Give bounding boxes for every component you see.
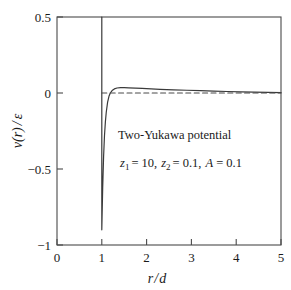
x-tick-label-0: 0	[54, 250, 61, 265]
y-tick-label-3: −1	[37, 238, 51, 253]
y-tick-label-1: 0	[45, 86, 52, 101]
x-axis-title-r: r	[148, 271, 154, 286]
annot-z1-subscript: 1	[125, 162, 130, 172]
plot-canvas: 0.5 0 −0.5 −1 0 1 2 3 4 5 r/d v(r)/ε Two…	[0, 0, 291, 290]
annot-A-value: = 0.1	[216, 156, 242, 170]
annotation-parameters: z1= 10,z2= 0.1,A= 0.1	[119, 156, 242, 172]
svg-text:z1= 10,z2= 0.1,A= 0.1: z1= 10,z2= 0.1,A= 0.1	[119, 156, 242, 172]
svg-text:r/d: r/d	[148, 271, 167, 286]
y-tick-label-2: −0.5	[27, 162, 51, 177]
annot-A-symbol: A	[205, 156, 214, 170]
x-tick-label-4: 4	[233, 250, 240, 265]
y-axis-title-eps: ε	[10, 113, 25, 119]
x-tick-label-5: 5	[278, 250, 285, 265]
chart-figure: 0.5 0 −0.5 −1 0 1 2 3 4 5 r/d v(r)/ε Two…	[0, 0, 291, 290]
x-tick-label-1: 1	[99, 250, 106, 265]
annotation-title: Two-Yukawa potential	[118, 128, 232, 142]
annot-z2-value: = 0.1,	[173, 156, 202, 170]
x-tick-label-2: 2	[143, 250, 150, 265]
annot-z1-value: = 10,	[131, 156, 157, 170]
y-axis-title: v(r)/ε	[10, 113, 26, 148]
x-tick-label-3: 3	[188, 250, 195, 265]
y-tick-label-0: 0.5	[35, 10, 51, 25]
y-axis-title-paren-close: )	[10, 127, 26, 133]
x-axis-title-d: d	[159, 271, 167, 286]
annot-z2-subscript: 2	[166, 162, 171, 172]
x-axis-title: r/d	[148, 271, 167, 286]
svg-text:v(r)/ε: v(r)/ε	[10, 113, 26, 148]
